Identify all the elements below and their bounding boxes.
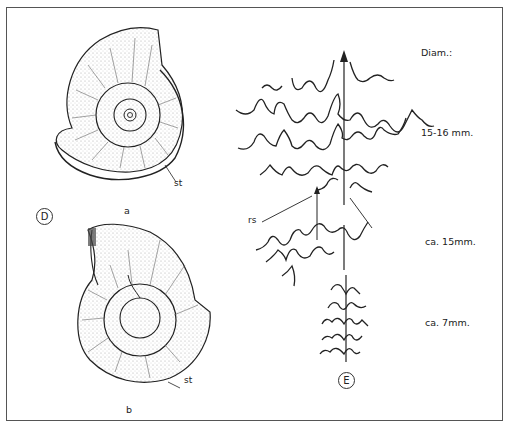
panel-d-label: D (36, 208, 53, 225)
view-a-caption: a (124, 205, 130, 216)
st-label-a: st (174, 178, 182, 188)
st-label-b: st (184, 375, 192, 385)
suture-lines-panel-e (236, 50, 434, 362)
diameter-row-3: ca. 7mm. (425, 317, 470, 328)
panel-e-label: E (338, 372, 355, 389)
view-b-caption: b (126, 404, 132, 415)
diameter-heading: Diam.: (421, 47, 452, 58)
diameter-row-2: ca. 15mm. (425, 236, 476, 247)
ammonite-view-b (78, 224, 210, 388)
ammonite-view-a (55, 28, 183, 182)
rs-label: rs (248, 215, 256, 225)
diameter-row-1: 15-16 mm. (421, 127, 473, 138)
